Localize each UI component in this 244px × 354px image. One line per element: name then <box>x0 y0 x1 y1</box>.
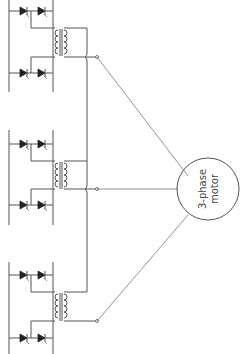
scr-icon <box>38 140 47 150</box>
transformer-icon <box>55 293 67 321</box>
motor-label-line1: 3-phase <box>197 169 208 209</box>
motor-label-line2: motor <box>209 173 220 204</box>
wire-phase-a-to-motor <box>97 57 188 176</box>
scr-icon <box>20 69 29 79</box>
circuit-diagram: 3-phase motor <box>0 0 244 354</box>
scr-icon <box>38 271 47 281</box>
neutral-bus <box>86 54 88 292</box>
scr-icon <box>20 271 29 281</box>
motor: 3-phase motor <box>177 158 239 220</box>
scr-icon <box>20 140 29 150</box>
motor-circle-icon <box>177 158 239 220</box>
phase-c-group <box>9 262 99 354</box>
scr-icon <box>20 334 29 344</box>
transformer-icon <box>55 162 67 189</box>
scr-icon <box>38 7 47 17</box>
phase-a-group <box>9 0 99 92</box>
scr-icon <box>38 334 47 344</box>
scr-icon <box>20 7 29 17</box>
scr-icon <box>20 201 29 211</box>
scr-icon <box>38 201 47 211</box>
scr-icon <box>38 69 47 79</box>
phase-b-group <box>9 130 99 225</box>
wire-phase-c-to-motor <box>97 215 188 321</box>
transformer-icon <box>55 29 67 56</box>
